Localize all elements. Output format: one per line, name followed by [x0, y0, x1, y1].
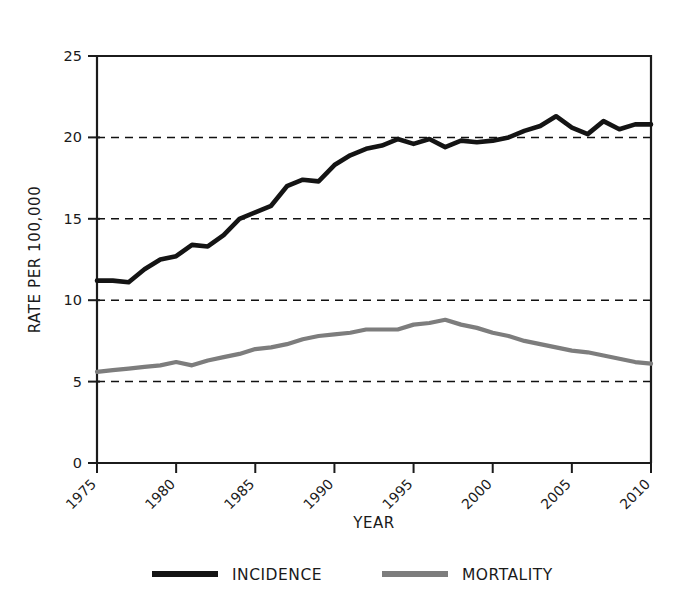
y-axis-label: RATE PER 100,000 — [26, 186, 44, 334]
x-tick-label: 1980 — [142, 476, 179, 513]
series-line-mortality — [97, 320, 651, 372]
plot-frame — [97, 56, 651, 463]
y-tick-label: 15 — [64, 211, 82, 227]
data-series — [97, 116, 651, 372]
y-tick-label: 5 — [73, 374, 82, 390]
x-tick-label: 1975 — [63, 476, 100, 513]
x-tick-label: 1990 — [300, 476, 337, 513]
chart-legend: INCIDENCE MORTALITY — [152, 566, 553, 584]
x-tick-label: 2000 — [458, 476, 495, 513]
gridlines — [97, 56, 651, 382]
x-tick-label: 2005 — [537, 476, 574, 513]
x-tick-label: 1995 — [379, 476, 416, 513]
y-axis-title: RATE PER 100,000 — [26, 186, 44, 334]
series-line-incidence — [97, 116, 651, 282]
y-axis: 0510152025 — [64, 48, 100, 471]
x-tick-label: 1985 — [221, 476, 258, 513]
y-tick-label: 20 — [64, 129, 82, 145]
x-axis-label: YEAR — [352, 514, 395, 532]
x-tick-label: 2010 — [617, 476, 654, 513]
y-tick-label: 10 — [64, 292, 82, 308]
y-tick-label: 25 — [64, 48, 82, 64]
line-chart: 0510152025 19751980198519901995200020052… — [0, 0, 685, 601]
legend-label-mortality: MORTALITY — [462, 566, 553, 584]
x-axis: 19751980198519901995200020052010 — [63, 463, 654, 512]
legend-label-incidence: INCIDENCE — [232, 566, 322, 584]
x-axis-title: YEAR — [352, 514, 395, 532]
y-tick-label: 0 — [73, 455, 82, 471]
chart-container: 0510152025 19751980198519901995200020052… — [0, 0, 685, 601]
